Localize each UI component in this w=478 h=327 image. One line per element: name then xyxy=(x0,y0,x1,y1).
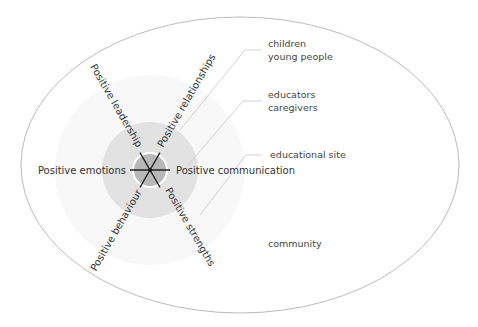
label-positive-communication: Positive communication xyxy=(176,165,295,176)
label-educational-site: educational site xyxy=(270,149,346,160)
label-caregivers: caregivers xyxy=(268,102,318,113)
label-young-people: young people xyxy=(268,51,333,62)
label-community: community xyxy=(268,238,322,249)
diagram-canvas: Positive emotions Positive communication… xyxy=(0,0,478,327)
label-educators: educators xyxy=(268,89,315,100)
label-positive-emotions: Positive emotions xyxy=(38,165,126,176)
label-children: children xyxy=(268,38,306,49)
center-dot xyxy=(148,168,152,172)
